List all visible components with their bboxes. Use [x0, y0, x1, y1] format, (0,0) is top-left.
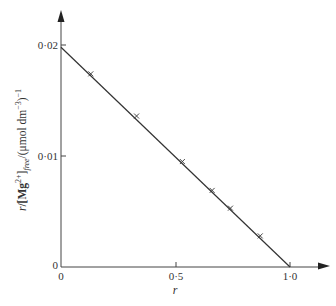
svg-text:r/[Mg2+]free/(μmol dm−3)−1: r/[Mg2+]free/(μmol dm−3)−1 — [14, 89, 31, 211]
y-axis-title: r/[Mg2+]free/(μmol dm−3)−1 — [14, 89, 31, 211]
y-title-outer-exp: −1 — [14, 89, 23, 98]
x-tick-label-0: 0 — [58, 270, 64, 282]
data-point-x-marker — [134, 114, 139, 119]
y-axis-arrow-icon — [58, 10, 65, 22]
y-title-units-exp: −3 — [14, 101, 23, 110]
y-tick-label-002: 0·02 — [38, 39, 58, 51]
y-title-units: /(μmol dm — [16, 110, 29, 159]
y-title-mg: /[Mg — [16, 183, 29, 208]
plot-area — [61, 47, 290, 267]
fit-line — [61, 47, 290, 267]
x-axis-title: r — [173, 283, 178, 297]
x-axis-arrow-icon — [318, 263, 330, 270]
y-title-sub: free — [22, 158, 31, 171]
x-tick-label-05: 0·5 — [169, 270, 184, 282]
y-tick-label-001: 0·01 — [38, 150, 58, 162]
x-tick-label-10: 1·0 — [283, 270, 298, 282]
chart: 0·02 0·01 0 0 0·5 1·0 r r/[Mg2+]free/(μm… — [0, 0, 336, 306]
